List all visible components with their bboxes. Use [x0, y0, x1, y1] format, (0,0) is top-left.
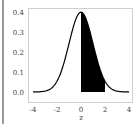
- x-tick-label: -4: [30, 106, 37, 114]
- y-tick-label: 0.1: [13, 69, 24, 77]
- x-tick-label: 2: [103, 106, 107, 114]
- x-tick-label: -2: [54, 106, 61, 114]
- shaded-area-0-to-2: [81, 12, 105, 92]
- normal-distribution-chart: 0.00.10.20.30.4 -4-2024 z: [0, 0, 140, 124]
- y-tick-label: 0.2: [13, 49, 24, 57]
- x-tick-label: 4: [127, 106, 132, 114]
- y-axis-ticks: 0.00.10.20.30.4: [13, 9, 25, 97]
- x-axis-label: z: [79, 114, 83, 122]
- y-tick-label: 0.4: [13, 9, 25, 17]
- x-tick-label: 0: [79, 106, 83, 114]
- y-tick-label: 0.3: [13, 29, 24, 37]
- plot-frame: [29, 9, 133, 103]
- x-axis-ticks: -4-2024: [30, 106, 132, 114]
- y-tick-label: 0.0: [13, 89, 24, 97]
